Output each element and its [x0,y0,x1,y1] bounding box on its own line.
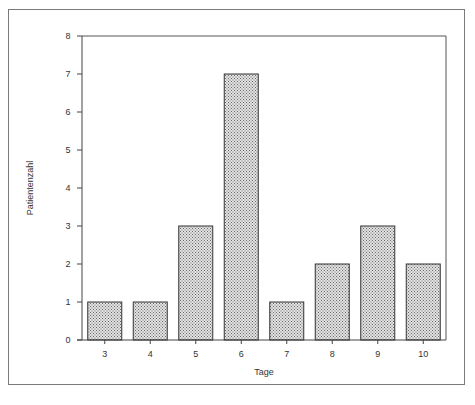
y-tick-label: 0 [65,335,70,345]
y-tick-label: 7 [65,69,70,79]
bar-3 [88,302,122,340]
x-axis-title: Tage [254,367,274,377]
x-axis: 345678910 [77,340,446,359]
y-axis: 012345678 [65,31,82,345]
y-tick-label: 8 [65,31,70,41]
bar-6 [224,74,258,340]
bar-4 [133,302,167,340]
bar-9 [361,226,395,340]
y-tick-label: 4 [65,183,70,193]
x-tick-label: 6 [239,349,244,359]
y-tick-label: 2 [65,259,70,269]
x-tick-label: 8 [330,349,335,359]
bars [88,74,441,340]
x-tick-label: 5 [193,349,198,359]
y-tick-label: 5 [65,145,70,155]
x-tick-label: 3 [102,349,107,359]
bar-8 [315,264,349,340]
y-tick-label: 6 [65,107,70,117]
bar-5 [179,226,213,340]
bar-10 [406,264,440,340]
y-axis-title: Patientenzahl [25,161,35,216]
x-tick-label: 10 [418,349,428,359]
bar-7 [270,302,304,340]
x-tick-label: 7 [284,349,289,359]
y-tick-label: 1 [65,297,70,307]
bar-chart: 012345678 345678910 Tage Patientenzahl [0,0,475,405]
x-tick-label: 9 [375,349,380,359]
x-tick-label: 4 [148,349,153,359]
figure-caption-cropped [110,396,410,405]
y-tick-label: 3 [65,221,70,231]
